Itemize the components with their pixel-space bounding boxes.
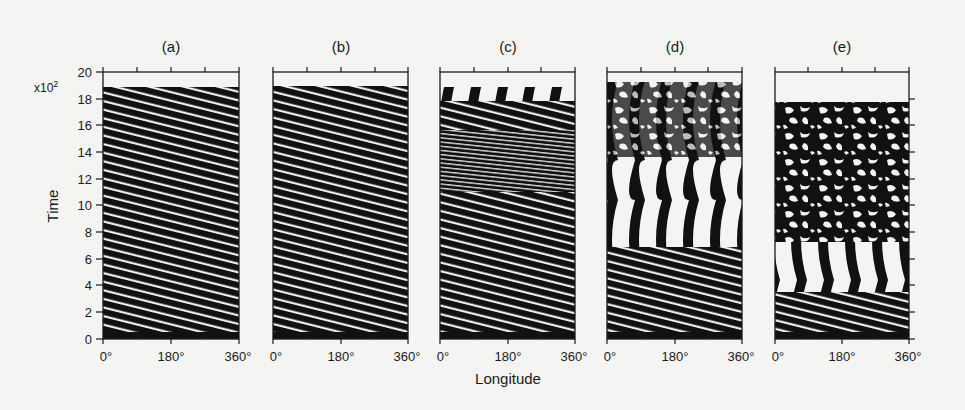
svg-text:10: 10	[78, 198, 92, 213]
svg-text:180°: 180°	[158, 349, 185, 364]
panel-b: (b)	[273, 38, 408, 339]
svg-text:8: 8	[85, 225, 92, 240]
svg-text:180°: 180°	[662, 349, 689, 364]
panel-label-a: (a)	[162, 38, 180, 55]
svg-text:2: 2	[85, 305, 92, 320]
svg-text:180°: 180°	[495, 349, 522, 364]
svg-text:0°: 0°	[604, 349, 616, 364]
panel-label-b: (b)	[332, 38, 350, 55]
svg-text:6: 6	[85, 252, 92, 267]
svg-text:360°: 360°	[895, 349, 922, 364]
svg-text:14: 14	[78, 145, 92, 160]
x-axis-label: Longitude	[475, 370, 541, 387]
svg-text:16: 16	[78, 118, 92, 133]
svg-text:180°: 180°	[328, 349, 355, 364]
panel-label-c: (c)	[499, 38, 517, 55]
x-axis-ticks: 0° 180° 360° 0° 180° 360° 0° 180° 360° 0…	[100, 349, 922, 364]
svg-text:20: 20	[78, 65, 92, 80]
panel-label-e: (e)	[833, 38, 851, 55]
panel-e: (e)	[775, 38, 915, 339]
svg-text:12: 12	[78, 172, 92, 187]
svg-text:0°: 0°	[270, 349, 282, 364]
figure: Time x102 0 2 4 6 8 10 12 14 16 18 20 (a…	[0, 0, 965, 410]
y-axis-label: Time	[44, 190, 61, 223]
svg-text:0: 0	[85, 332, 92, 347]
svg-text:18: 18	[78, 92, 92, 107]
y-axis: 0 2 4 6 8 10 12 14 16 18 20	[78, 65, 92, 347]
panel-d: (d)	[607, 38, 742, 339]
svg-text:360°: 360°	[561, 349, 588, 364]
svg-text:0°: 0°	[100, 349, 112, 364]
svg-text:180°: 180°	[829, 349, 856, 364]
svg-text:360°: 360°	[225, 349, 252, 364]
svg-text:0°: 0°	[772, 349, 784, 364]
svg-text:4: 4	[85, 278, 92, 293]
panel-c: (c)	[440, 38, 575, 339]
svg-text:360°: 360°	[394, 349, 421, 364]
svg-text:360°: 360°	[728, 349, 755, 364]
panel-a: (a)	[103, 38, 239, 339]
panel-label-d: (d)	[666, 38, 684, 55]
svg-text:0°: 0°	[437, 349, 449, 364]
y-axis-multiplier: x102	[34, 79, 58, 95]
